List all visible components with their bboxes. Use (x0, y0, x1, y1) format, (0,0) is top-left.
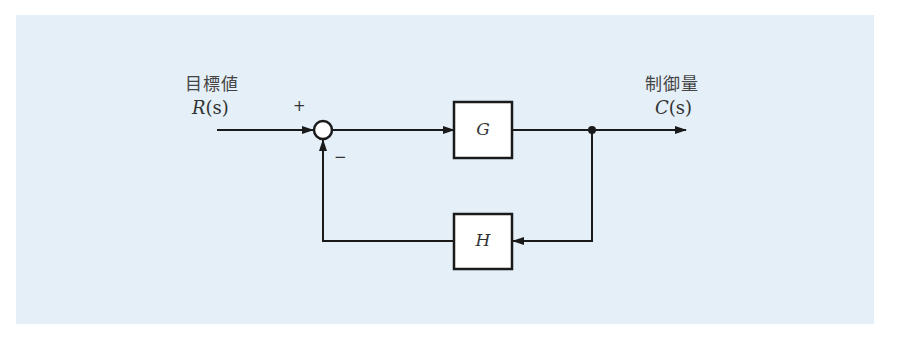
input-title: 目標値 (185, 70, 239, 95)
input-signal-arg: (s) (206, 97, 229, 118)
output-signal-arg: (s) (669, 97, 692, 118)
minus-sign: − (334, 148, 347, 166)
forward-block-label: G (454, 119, 512, 139)
summing-junction (314, 121, 332, 139)
input-signal-label: R(s) (192, 97, 229, 118)
feedback-block-label: H (454, 230, 512, 250)
input-signal-symbol: R (192, 97, 206, 118)
feedback-path-to-h (513, 130, 592, 241)
plus-sign: + (293, 97, 306, 115)
output-title: 制御量 (645, 70, 699, 95)
output-signal-symbol: C (655, 97, 669, 118)
block-diagram (0, 0, 897, 341)
output-signal-label: C(s) (655, 97, 692, 118)
